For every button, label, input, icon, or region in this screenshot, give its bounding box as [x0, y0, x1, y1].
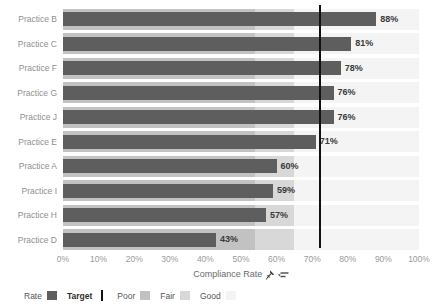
- band-good: [294, 180, 419, 201]
- rate-bar[interactable]: [63, 12, 376, 26]
- band-swatch[interactable]: [180, 291, 190, 300]
- legend-rate-label: Rate: [24, 291, 42, 301]
- rate-bar[interactable]: [63, 184, 273, 198]
- x-tick-label: 50%: [232, 254, 249, 264]
- legend-band-label: Fair: [160, 291, 175, 301]
- legend-item-poor[interactable]: Poor: [117, 291, 150, 301]
- bar-row: Practice C81%: [0, 32, 443, 57]
- bar-value-label: 88%: [380, 9, 398, 30]
- bar-value-label: 43%: [220, 229, 238, 250]
- row-plot: 59%: [63, 180, 419, 201]
- x-axis-ticks: 0%10%20%30%40%50%60%70%80%90%100%: [63, 254, 419, 267]
- category-label: Practice J: [0, 112, 63, 122]
- bar-row: Practice G76%: [0, 81, 443, 106]
- category-label: Practice G: [0, 88, 63, 98]
- rate-bar[interactable]: [63, 110, 334, 124]
- bar-row: Practice F78%: [0, 56, 443, 81]
- row-plot: 81%: [63, 33, 419, 54]
- band-swatch[interactable]: [226, 291, 236, 300]
- x-axis-label: Compliance Rate: [193, 269, 262, 279]
- legend-item-good[interactable]: Good: [200, 291, 236, 301]
- rate-bar[interactable]: [63, 61, 341, 75]
- x-tick-label: 40%: [197, 254, 214, 264]
- row-plot: 76%: [63, 82, 419, 103]
- sort-icon[interactable]: [278, 270, 289, 280]
- category-label: Practice H: [0, 210, 63, 220]
- bar-value-label: 76%: [338, 82, 356, 103]
- rate-bar[interactable]: [63, 159, 277, 173]
- row-plot: 71%: [63, 131, 419, 152]
- category-label: Practice B: [0, 14, 63, 24]
- row-plot: 43%: [63, 229, 419, 250]
- bullet-chart-visualization: Practice B88%Practice C81%Practice F78%P…: [0, 0, 443, 307]
- x-tick-label: 10%: [90, 254, 107, 264]
- bar-value-label: 78%: [345, 58, 363, 79]
- legend: Rate Target PoorFairGood: [24, 290, 443, 301]
- row-plot: 76%: [63, 107, 419, 128]
- bar-row: Practice A60%: [0, 154, 443, 179]
- x-tick-label: 80%: [339, 254, 356, 264]
- rate-bar[interactable]: [63, 135, 316, 149]
- x-tick-label: 60%: [268, 254, 285, 264]
- bar-rows: Practice B88%Practice C81%Practice F78%P…: [0, 7, 443, 252]
- rate-swatch[interactable]: [47, 291, 57, 300]
- bar-row: Practice E71%: [0, 130, 443, 155]
- bar-value-label: 81%: [355, 33, 373, 54]
- category-label: Practice D: [0, 235, 63, 245]
- band-legend: PoorFairGood: [117, 291, 245, 301]
- legend-band-label: Poor: [117, 291, 135, 301]
- row-plot: 60%: [63, 156, 419, 177]
- row-plot: 88%: [63, 9, 419, 30]
- bar-value-label: 71%: [320, 131, 338, 152]
- legend-item-rate[interactable]: Rate: [24, 291, 57, 301]
- x-tick-label: 100%: [408, 254, 430, 264]
- row-plot: 78%: [63, 58, 419, 79]
- x-tick-label: 30%: [161, 254, 178, 264]
- bar-row: Practice I59%: [0, 179, 443, 204]
- band-good: [294, 156, 419, 177]
- chart-area: Practice B88%Practice C81%Practice F78%P…: [0, 0, 443, 252]
- bar-value-label: 57%: [270, 205, 288, 226]
- x-tick-label: 0%: [57, 254, 69, 264]
- rate-bar[interactable]: [63, 86, 334, 100]
- target-reference-line: [319, 5, 321, 248]
- bar-value-label: 60%: [281, 156, 299, 177]
- x-tick-label: 70%: [304, 254, 321, 264]
- target-line-swatch: [101, 290, 103, 301]
- bar-value-label: 59%: [277, 180, 295, 201]
- category-label: Practice E: [0, 137, 63, 147]
- x-tick-label: 90%: [375, 254, 392, 264]
- category-label: Practice C: [0, 39, 63, 49]
- bar-value-label: 76%: [338, 107, 356, 128]
- band-swatch[interactable]: [140, 291, 150, 300]
- x-axis-title: Compliance Rate: [63, 267, 419, 281]
- category-label: Practice A: [0, 161, 63, 171]
- bar-row: Practice J76%: [0, 105, 443, 130]
- legend-item-target[interactable]: Target: [67, 290, 107, 301]
- bar-row: Practice H57%: [0, 203, 443, 228]
- rate-bar[interactable]: [63, 37, 351, 51]
- band-good: [294, 229, 419, 250]
- rate-bar[interactable]: [63, 208, 266, 222]
- pin-icon[interactable]: [266, 270, 275, 280]
- row-plot: 57%: [63, 205, 419, 226]
- x-tick-label: 20%: [126, 254, 143, 264]
- legend-band-label: Good: [200, 291, 221, 301]
- band-good: [294, 205, 419, 226]
- legend-item-fair[interactable]: Fair: [160, 291, 190, 301]
- legend-target-label: Target: [67, 291, 92, 301]
- category-label: Practice I: [0, 186, 63, 196]
- bar-row: Practice D43%: [0, 228, 443, 253]
- category-label: Practice F: [0, 63, 63, 73]
- bar-row: Practice B88%: [0, 7, 443, 32]
- band-fair: [255, 229, 294, 250]
- rate-bar[interactable]: [63, 233, 216, 247]
